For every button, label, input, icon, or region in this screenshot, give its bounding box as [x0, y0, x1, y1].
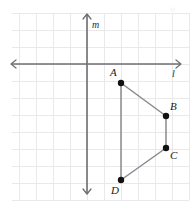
vertex-label-D: D [110, 184, 119, 196]
geometry-figure-canvas: lmABCD ⊕ [0, 0, 192, 203]
watermark-icon: ⊕ [170, 6, 176, 13]
vertex-point-B [163, 113, 169, 119]
vertex-label-A: A [109, 66, 117, 78]
vertex-label-B: B [170, 100, 177, 112]
polygon-edge-AB [121, 83, 166, 116]
axis-label-m: m [92, 19, 99, 30]
coordinate-plane-svg: lmABCD ⊕ [0, 0, 192, 203]
grid-lines [12, 13, 189, 200]
vertex-label-C: C [170, 149, 178, 161]
vertex-point-C [163, 145, 169, 151]
vertex-point-D [118, 177, 124, 183]
axis-label-l: l [172, 68, 175, 79]
vertex-point-A [118, 80, 124, 86]
polygon-edge-CD [121, 148, 166, 180]
